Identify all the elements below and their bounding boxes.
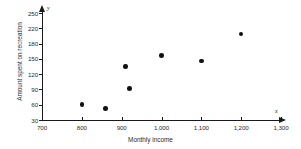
y-axis-tick-mark [39,74,43,75]
data-point-marker [103,106,108,111]
data-point-marker [80,102,85,107]
data-point-marker [123,64,128,69]
x-axis-tick-label: 1,000 [142,124,182,131]
y-axis-tick-mark [39,89,43,90]
x-axis-tick-mark [201,117,202,121]
x-axis-tick-label: 900 [102,124,142,131]
y-axis-tick-mark [39,59,43,60]
data-point-marker [159,53,164,58]
y-axis-arrow-icon [39,5,45,12]
x-axis-variable-letter: x [275,108,278,114]
x-axis-tick-label: 1,200 [221,124,261,131]
plot-area: y x 306090120150180220250 7008009001,000… [0,0,301,149]
data-point-marker [127,86,132,91]
scatter-plot-figure: y x 306090120150180220250 7008009001,000… [0,0,301,149]
y-axis-tick-mark [39,13,43,14]
y-axis-title: Amount spent on recreation [16,2,23,122]
x-axis-tick-label: 1,300 [261,124,301,131]
x-axis-tick-label: 700 [22,124,62,131]
data-point-marker [239,32,244,37]
x-axis-tick-mark [122,117,123,121]
y-axis-tick-mark [39,44,43,45]
x-axis-tick-mark [82,117,83,121]
x-axis-tick-mark [241,117,242,121]
data-point-marker [199,59,204,64]
y-axis-variable-letter: y [47,5,50,11]
x-axis-tick-mark [281,117,282,121]
x-axis-title: Monthly income [0,136,301,143]
x-axis-tick-mark [42,117,43,121]
y-axis-tick-mark [39,105,43,106]
y-axis-tick-mark [39,28,43,29]
x-axis-tick-label: 800 [62,124,102,131]
x-axis-tick-label: 1,100 [181,124,221,131]
x-axis-tick-mark [162,117,163,121]
